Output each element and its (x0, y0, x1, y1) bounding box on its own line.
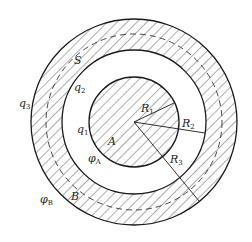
label-A: A (107, 135, 116, 148)
label-B: B (70, 190, 79, 203)
diagram-canvas: S q3 q2 q1 R1 R2 R3 A φA φB B (0, 0, 252, 242)
label-S: S (74, 54, 82, 67)
